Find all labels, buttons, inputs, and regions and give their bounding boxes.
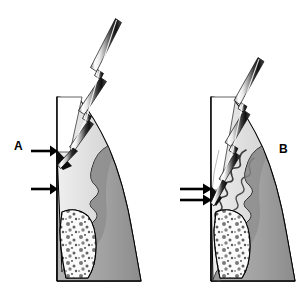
periodontal-probing-figure bbox=[0, 0, 308, 291]
panel-label-b: B bbox=[279, 143, 288, 155]
figure-root: A B bbox=[0, 0, 308, 291]
panel-label-a: A bbox=[14, 140, 23, 152]
